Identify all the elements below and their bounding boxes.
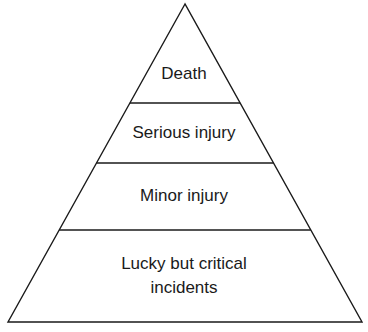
level-serious-injury-label: Serious injury: [0, 121, 368, 145]
level-lucky-critical-label-line1: Lucky but critical: [0, 252, 368, 276]
level-death-label: Death: [0, 62, 368, 86]
level-minor-injury-label: Minor injury: [0, 184, 368, 208]
level-lucky-critical-label-line2: incidents: [0, 276, 368, 300]
